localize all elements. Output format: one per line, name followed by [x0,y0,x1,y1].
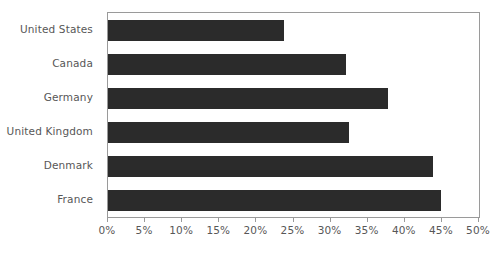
value-axis-tick [293,217,294,222]
value-axis-tick [107,217,108,222]
value-axis-tick [144,217,145,222]
category-tick-row: United States [0,12,100,46]
category-tick-row: Denmark [0,148,100,182]
value-axis-tick [478,217,479,222]
bar-denmark [108,156,433,177]
value-axis-label: 35% [355,224,379,236]
category-label: United Kingdom [7,125,93,137]
bar-row [108,115,479,149]
value-axis-label: 10% [169,224,193,236]
value-axis: 0%5%10%15%20%25%30%35%40%45%50% [107,217,478,247]
category-axis: United States Canada Germany United King… [0,12,100,216]
value-axis-label: 5% [136,224,153,236]
bar-france [108,190,441,211]
value-axis-label: 45% [429,224,453,236]
value-axis-label: 50% [466,224,490,236]
bar-chart: United States Canada Germany United King… [0,0,502,253]
value-axis-label: 15% [206,224,230,236]
category-label: Denmark [44,159,93,171]
category-label: United States [20,23,93,35]
value-axis-label: 0% [99,224,116,236]
bar-row [108,183,479,217]
value-axis-tick [218,217,219,222]
value-axis-tick [181,217,182,222]
bar-row [108,81,479,115]
bar-united-states [108,20,284,41]
bars-layer [108,13,479,217]
value-axis-tick [330,217,331,222]
value-axis-tick [404,217,405,222]
plot-area [107,12,480,218]
bar-row [108,13,479,47]
value-axis-label: 40% [392,224,416,236]
value-axis-tick [441,217,442,222]
category-label: Canada [52,57,93,69]
category-label: France [57,193,93,205]
value-axis-label: 20% [243,224,267,236]
category-tick-row: Germany [0,80,100,114]
value-axis-tick [367,217,368,222]
bar-canada [108,54,346,75]
value-axis-label: 25% [281,224,305,236]
bar-row [108,47,479,81]
value-axis-tick [255,217,256,222]
category-label: Germany [44,91,93,103]
category-tick-row: United Kingdom [0,114,100,148]
category-tick-row: France [0,182,100,216]
bar-row [108,149,479,183]
category-tick-row: Canada [0,46,100,80]
value-axis-label: 30% [318,224,342,236]
bar-germany [108,88,388,109]
bar-united-kingdom [108,122,349,143]
